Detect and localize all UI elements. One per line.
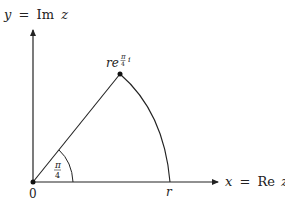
angle-label: π 4	[54, 160, 62, 180]
sector-arc	[120, 74, 170, 182]
origin-point	[31, 180, 36, 185]
apex-point	[118, 72, 123, 77]
ray-to-point	[33, 74, 120, 182]
svg-text:4: 4	[121, 60, 125, 67]
svg-text:i: i	[128, 55, 131, 64]
y-axis-label: y = Im z	[3, 7, 68, 22]
angle-arc	[59, 150, 73, 182]
svg-text:π: π	[54, 160, 62, 170]
x-axis-label: x = Re z	[225, 174, 285, 189]
svg-text:4: 4	[55, 171, 60, 180]
point-label: re π 4 i	[106, 53, 131, 70]
radius-label: r	[166, 185, 173, 199]
origin-label: 0	[29, 187, 37, 201]
svg-text:re: re	[106, 56, 119, 70]
diagram-canvas: y = Im z x = Re z 0 r re π 4 i π 4	[0, 0, 285, 206]
